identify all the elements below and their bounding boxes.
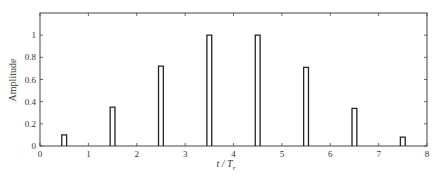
x-axis-ticks: 012345678 — [38, 13, 430, 159]
pulse-bar — [110, 107, 115, 146]
pulse-series — [62, 35, 405, 146]
y-axis-ticks: 00.20.40.60.81 — [25, 30, 427, 151]
x-tick-label: 7 — [376, 149, 381, 159]
x-axis-label: t / Tr — [217, 158, 236, 172]
pulse-bar — [62, 135, 67, 146]
x-tick-label: 1 — [86, 149, 91, 159]
y-axis-label: Amplitude — [7, 58, 18, 101]
pulse-bar — [400, 137, 405, 146]
pulse-bar — [159, 66, 164, 146]
x-tick-label: 0 — [38, 149, 43, 159]
x-tick-label: 8 — [425, 149, 430, 159]
x-tick-label: 5 — [280, 149, 285, 159]
x-tick-label: 2 — [135, 149, 140, 159]
x-tick-label: 3 — [183, 149, 188, 159]
y-tick-label: 0.4 — [25, 97, 37, 107]
pulse-bar — [352, 108, 357, 146]
pulse-bar — [255, 35, 260, 146]
plot-area — [40, 13, 427, 146]
pulse-bar — [304, 67, 309, 146]
y-tick-label: 0.6 — [25, 75, 37, 85]
x-tick-label: 6 — [328, 149, 333, 159]
amplitude-pulse-chart: 012345678 00.20.40.60.81 Amplitude t / T… — [0, 0, 441, 178]
y-tick-label: 0.8 — [25, 52, 37, 62]
y-tick-label: 1 — [32, 30, 37, 40]
y-tick-label: 0 — [32, 141, 37, 151]
axes-box — [40, 13, 427, 146]
pulse-bar — [207, 35, 212, 146]
y-tick-label: 0.2 — [25, 119, 36, 129]
